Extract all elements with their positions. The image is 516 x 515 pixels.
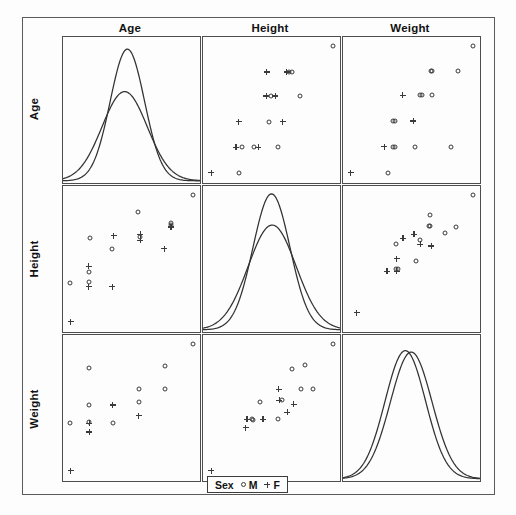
data-point-male — [393, 242, 398, 247]
data-point-female — [233, 144, 239, 150]
data-point-female — [109, 284, 115, 290]
data-point-female — [264, 69, 270, 75]
data-point-male — [297, 94, 302, 99]
data-point-male — [289, 366, 294, 371]
data-point-male — [275, 417, 280, 422]
column-header-height: Height — [200, 20, 340, 36]
data-point-male — [429, 93, 434, 98]
panel-weight-vs-weight-density — [342, 334, 481, 482]
data-point-male — [428, 223, 433, 228]
data-point-female — [284, 69, 290, 75]
data-point-female — [381, 144, 387, 150]
data-point-female — [280, 119, 286, 125]
data-point-male — [414, 259, 419, 264]
density-curve-f — [63, 92, 200, 181]
data-point-female — [291, 401, 297, 407]
data-point-female — [111, 233, 117, 239]
data-point-female — [86, 284, 92, 290]
row-label-height: Height — [28, 229, 40, 289]
data-point-female — [136, 413, 142, 419]
data-point-male — [266, 119, 271, 124]
data-point-male — [239, 145, 244, 150]
panel-height-vs-weight-scatter — [342, 185, 481, 333]
legend-entry-f: F — [264, 479, 279, 491]
data-point-male — [250, 418, 255, 423]
data-point-female — [272, 93, 278, 99]
density-curve-f — [343, 352, 480, 478]
panel-age-vs-age-density — [62, 36, 201, 184]
data-point-male — [136, 386, 141, 391]
data-point-male — [331, 342, 336, 347]
legend-label-m: M — [249, 479, 258, 491]
data-point-male — [67, 281, 72, 286]
panel-height-vs-height-density — [202, 185, 341, 333]
data-point-female — [243, 425, 249, 431]
legend-title: Sex — [215, 479, 234, 491]
panel-weight-vs-age-scatter — [62, 334, 201, 482]
data-point-male — [298, 387, 303, 392]
data-point-male — [428, 213, 433, 218]
data-point-male — [290, 69, 295, 74]
panel-age-vs-weight-scatter — [342, 36, 481, 184]
data-point-male — [162, 386, 167, 391]
data-point-male — [392, 118, 397, 123]
data-point-female — [411, 231, 417, 237]
data-point-female — [68, 319, 74, 325]
legend-label-f: F — [273, 479, 279, 491]
data-point-male — [430, 69, 435, 74]
data-point-male — [419, 93, 424, 98]
row-label-weight: Weight — [28, 379, 40, 439]
panel-height-vs-age-scatter — [62, 185, 201, 333]
legend: Sex M F — [207, 476, 288, 493]
open-circle-icon — [241, 482, 246, 487]
data-point-female — [394, 256, 400, 262]
density-curve-m — [343, 351, 480, 479]
data-point-male — [276, 145, 281, 150]
density-curve-f — [203, 225, 340, 328]
legend-entry-m: M — [241, 479, 258, 491]
data-point-male — [311, 387, 316, 392]
density-curve-m — [63, 49, 200, 181]
data-point-female — [68, 468, 74, 474]
data-point-male — [471, 44, 476, 49]
data-point-female — [394, 268, 400, 274]
data-point-female — [284, 409, 290, 415]
data-point-male — [236, 171, 241, 176]
data-point-male — [87, 403, 92, 408]
data-point-male — [386, 171, 391, 176]
data-point-male — [67, 420, 72, 425]
data-point-male — [110, 420, 115, 425]
data-point-female — [161, 246, 167, 252]
data-point-male — [258, 400, 263, 405]
data-point-male — [191, 342, 196, 347]
data-point-female — [410, 118, 416, 124]
panel-weight-vs-height-scatter — [202, 334, 341, 482]
data-point-female — [276, 397, 282, 403]
data-point-female — [208, 170, 214, 176]
data-point-male — [412, 144, 417, 149]
data-point-female — [137, 237, 143, 243]
data-point-male — [449, 144, 454, 149]
column-header-age: Age — [60, 20, 200, 36]
data-point-male — [109, 246, 114, 251]
data-point-female — [110, 402, 116, 408]
row-label-age: Age — [28, 79, 40, 139]
data-point-male — [191, 193, 196, 198]
data-point-female — [208, 468, 214, 474]
data-point-male — [302, 362, 307, 367]
data-point-male — [454, 224, 459, 229]
data-point-female — [384, 268, 390, 274]
density-curve-m — [203, 194, 340, 330]
scatterplot-matrix-figure: Age Height Weight Age Height Weight Sex … — [0, 0, 516, 515]
plus-icon — [264, 482, 270, 488]
column-header-weight: Weight — [340, 20, 480, 36]
data-point-male — [86, 269, 91, 274]
data-point-female — [428, 243, 434, 249]
data-point-male — [87, 235, 92, 240]
data-point-female — [276, 386, 282, 392]
data-point-female — [260, 416, 266, 422]
panel-age-vs-height-scatter — [202, 36, 341, 184]
data-point-female — [417, 241, 423, 247]
data-point-female — [86, 429, 92, 435]
data-point-male — [87, 365, 92, 370]
